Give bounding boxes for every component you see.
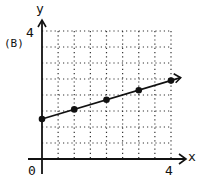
x-axis-label: x	[188, 150, 196, 163]
y-max-label: 4	[26, 26, 34, 39]
data-point	[168, 77, 175, 84]
data-line	[42, 78, 181, 119]
x-max-label: 4	[165, 164, 173, 177]
data-point	[135, 87, 142, 94]
panel-label: (B)	[4, 38, 24, 49]
data-point	[39, 116, 46, 123]
data-point	[71, 106, 78, 113]
y-axis-label: y	[36, 2, 44, 15]
data-point	[103, 97, 110, 104]
origin-label: 0	[28, 164, 36, 177]
